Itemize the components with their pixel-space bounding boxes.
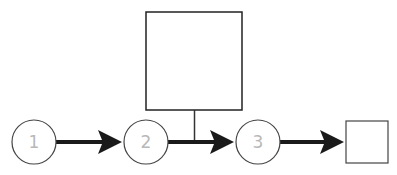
- node-1: 1: [12, 120, 56, 164]
- small-box: [346, 121, 388, 163]
- big-box: [146, 12, 242, 110]
- node-2: 2: [124, 120, 168, 164]
- node-3: 3: [236, 120, 280, 164]
- node-3-label: 3: [253, 132, 264, 152]
- node-1-label: 1: [29, 132, 40, 152]
- flow-diagram: 1 2 3: [0, 0, 397, 175]
- node-2-label: 2: [141, 132, 152, 152]
